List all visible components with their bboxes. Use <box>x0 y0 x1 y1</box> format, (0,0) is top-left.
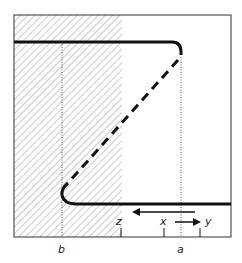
diagram-canvas: z x y b a <box>0 0 242 263</box>
label-b: b <box>58 243 65 256</box>
label-x: x <box>159 215 167 228</box>
label-a: a <box>177 243 184 256</box>
label-z: z <box>115 215 122 228</box>
label-y: y <box>204 215 212 228</box>
